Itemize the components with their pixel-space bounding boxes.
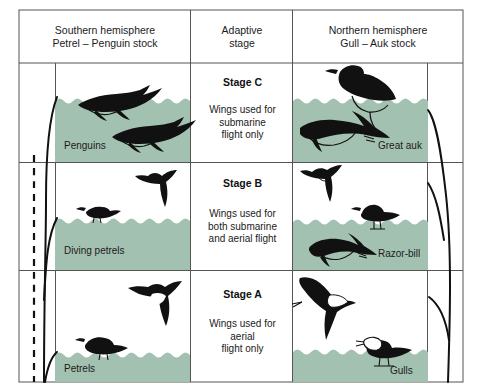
stage-desc-a-line3: flight only xyxy=(191,343,294,356)
label-diving-petrels: Diving petrels xyxy=(64,244,125,257)
header-northern-hemisphere: Northern hemisphere Gull – Auk stock xyxy=(293,24,463,50)
great-auk-upper-silhouette xyxy=(325,65,396,100)
label-gulls: Gulls xyxy=(390,364,413,377)
petrel-on-water-silhouette xyxy=(75,337,128,354)
stage-title-b: Stage B xyxy=(191,177,294,189)
header-northern-line2: Gull – Auk stock xyxy=(293,37,463,50)
label-razor-bill: Razor-bill xyxy=(378,247,420,260)
stage-desc-a-line2: aerial xyxy=(191,331,294,344)
gull-on-water-beak xyxy=(356,341,364,346)
stage-desc-b-line1: Wings used for xyxy=(191,208,294,221)
stage-desc-a: Wings used for aerial flight only xyxy=(191,318,294,356)
gull-flying-silhouette xyxy=(299,277,356,340)
razorbill-standing-legs xyxy=(370,221,385,229)
razorbill-flying-silhouette xyxy=(300,165,342,202)
header-adaptive-line1: Adaptive xyxy=(191,24,293,37)
stage-desc-c-line1: Wings used for xyxy=(191,104,294,117)
diving-petrel-flying-silhouette xyxy=(135,170,177,207)
stage-desc-c-line2: submarine xyxy=(191,117,294,130)
header-northern-line1: Northern hemisphere xyxy=(293,24,463,37)
header-adaptive-stage: Adaptive stage xyxy=(191,24,293,50)
razorbill-swimming-silhouette xyxy=(309,233,377,267)
label-great-auk: Great auk xyxy=(378,139,422,152)
penguin-lower-silhouette xyxy=(112,117,196,153)
label-petrels: Petrels xyxy=(64,362,95,375)
stage-desc-a-line1: Wings used for xyxy=(191,318,294,331)
diving-petrel-on-water-silhouette xyxy=(76,207,121,219)
stage-desc-b: Wings used for both submarine and aerial… xyxy=(191,208,294,246)
diving-petrel-on-water-outline xyxy=(93,218,101,223)
seabird-adaptive-stage-diagram: Southern hemisphere Petrel – Penguin sto… xyxy=(0,0,483,392)
stage-desc-b-line3: and aerial flight xyxy=(191,233,294,246)
label-penguins: Penguins xyxy=(64,139,106,152)
penguin-upper-silhouette xyxy=(78,85,162,121)
header-adaptive-line2: stage xyxy=(191,37,293,50)
razorbill-standing-silhouette xyxy=(351,205,400,222)
gull-on-water-head xyxy=(364,337,382,350)
stage-desc-c: Wings used for submarine flight only xyxy=(191,104,294,142)
stage-title-c: Stage C xyxy=(191,76,294,88)
petrel-on-water-legs xyxy=(99,354,108,360)
stage-desc-b-line2: both submarine xyxy=(191,221,294,234)
stage-desc-c-line3: flight only xyxy=(191,129,294,142)
great-auk-lower-silhouette xyxy=(300,111,390,152)
header-southern-line2: Petrel – Penguin stock xyxy=(19,37,191,50)
header-southern-line1: Southern hemisphere xyxy=(19,24,191,37)
header-southern-hemisphere: Southern hemisphere Petrel – Penguin sto… xyxy=(19,24,191,50)
stage-title-a: Stage A xyxy=(191,288,294,300)
gull-flying-beak xyxy=(292,302,302,307)
